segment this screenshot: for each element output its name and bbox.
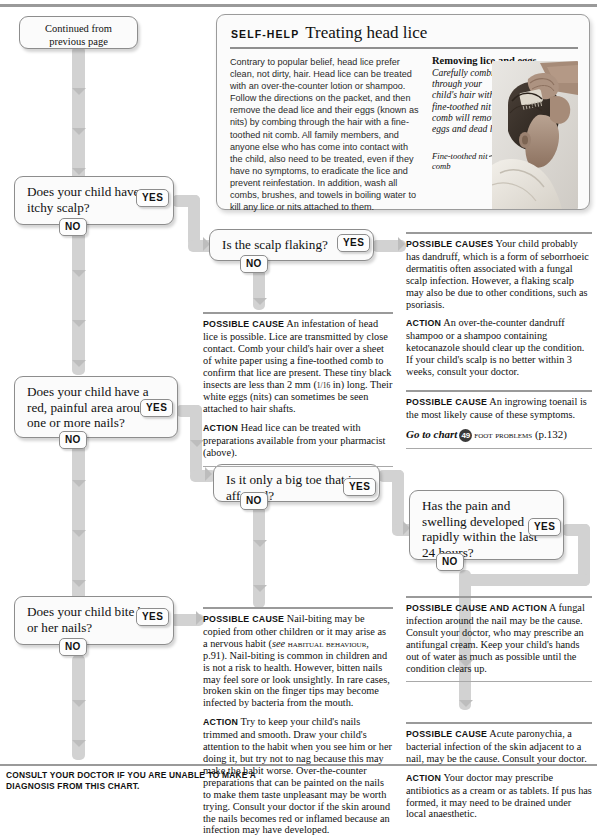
action-label: ACTION bbox=[406, 318, 441, 328]
chevron-down-icon bbox=[72, 360, 86, 367]
chevron-down-icon bbox=[72, 480, 86, 487]
headlice-cause-paragraph: POSSIBLE CAUSE An infestation of head li… bbox=[203, 318, 393, 415]
pipe-q1-no bbox=[72, 225, 85, 375]
question-text: Does your child have a red, painful area… bbox=[27, 384, 153, 430]
block-rule bbox=[203, 607, 393, 609]
yes-label: YES bbox=[534, 521, 555, 532]
yes-tag-q1[interactable]: YES bbox=[136, 189, 169, 207]
chevron-down-icon bbox=[253, 585, 267, 592]
paronychia-action-paragraph: ACTION Your doctor may prescribe antibio… bbox=[406, 772, 592, 821]
yes-tag-q3[interactable]: YES bbox=[140, 399, 173, 417]
block-rule bbox=[203, 312, 393, 314]
goto-chart-reference[interactable]: Go to chart49FOOT PROBLEMS (p.132) bbox=[406, 428, 592, 442]
dandruff-action-paragraph: ACTION An over-the-counter dandruff sham… bbox=[406, 317, 592, 378]
goto-page: (p.132) bbox=[535, 428, 567, 440]
possible-cause-and-action-label: POSSIBLE CAUSE AND ACTION bbox=[406, 603, 547, 613]
pipe-continued-to-q1 bbox=[72, 46, 85, 186]
paronychia-cause-paragraph: POSSIBLE CAUSE Acute paronychia, a bacte… bbox=[406, 728, 592, 765]
goto-prefix: Go to chart bbox=[406, 428, 457, 440]
block-rule-bottom bbox=[406, 681, 592, 682]
no-label: NO bbox=[246, 495, 262, 506]
chevron-down-icon bbox=[253, 540, 267, 547]
nailbiting-cause-paragraph: POSSIBLE CAUSE Nail-biting may be copied… bbox=[203, 613, 393, 709]
no-label: NO bbox=[246, 258, 262, 269]
chevron-down-icon bbox=[72, 270, 86, 277]
block-rule bbox=[406, 722, 592, 724]
possible-cause-label: POSSIBLE CAUSE bbox=[406, 397, 487, 407]
block-rule-bottom bbox=[203, 466, 393, 467]
yes-label: YES bbox=[146, 402, 167, 413]
continued-from-previous-page-box[interactable]: Continued from previous page bbox=[19, 16, 138, 49]
no-tag-q4[interactable]: NO bbox=[240, 492, 268, 510]
yes-tag-q5[interactable]: YES bbox=[528, 518, 561, 536]
possible-cause-label: POSSIBLE CAUSE bbox=[203, 319, 284, 329]
yes-label: YES bbox=[349, 481, 370, 492]
action-label: ACTION bbox=[406, 773, 441, 783]
chevron-down-icon bbox=[253, 298, 267, 305]
no-label: NO bbox=[65, 221, 81, 232]
yes-tag-q2[interactable]: YES bbox=[337, 234, 370, 252]
chevron-down-icon bbox=[72, 700, 86, 707]
block-rule bbox=[406, 232, 592, 234]
possible-causes-label: POSSIBLE CAUSES bbox=[406, 239, 493, 249]
goto-chart-name: FOOT PROBLEMS bbox=[474, 429, 532, 440]
dandruff-cause-paragraph: POSSIBLE CAUSES Your child probably has … bbox=[406, 238, 592, 310]
possible-cause-label: POSSIBLE CAUSE bbox=[406, 729, 487, 739]
nailbiting-cross-ref: HABITUAL BEHAVIOUR bbox=[288, 638, 367, 649]
block-rule bbox=[406, 596, 592, 598]
see-word: see bbox=[272, 638, 285, 649]
chevron-down-icon bbox=[190, 440, 204, 447]
no-tag-q6[interactable]: NO bbox=[59, 638, 87, 656]
text-block-paronychia: POSSIBLE CAUSE Acute paronychia, a bacte… bbox=[406, 722, 592, 820]
fungal-cause-paragraph: POSSIBLE CAUSE AND ACTION A fungal infec… bbox=[406, 602, 592, 674]
yes-tag-q6[interactable]: YES bbox=[136, 608, 169, 626]
yes-tag-q4[interactable]: YES bbox=[343, 478, 376, 496]
no-tag-q5[interactable]: NO bbox=[436, 553, 464, 571]
self-help-kicker: SELF-HELP bbox=[231, 28, 299, 40]
chevron-down-icon bbox=[72, 168, 86, 175]
continued-label: Continued from previous page bbox=[45, 23, 112, 47]
figure-leader-label: Fine-toothed nit comb bbox=[432, 151, 494, 171]
toenail-cause-paragraph: POSSIBLE CAUSE An ingrowing toenail is t… bbox=[406, 396, 592, 421]
no-tag-q1[interactable]: NO bbox=[59, 218, 87, 236]
headlice-action-paragraph: ACTION Head lice can be treated with pre… bbox=[203, 422, 393, 459]
no-label: NO bbox=[442, 556, 458, 567]
yes-label: YES bbox=[142, 192, 163, 203]
possible-cause-label: POSSIBLE CAUSE bbox=[203, 614, 284, 624]
chevron-down-icon bbox=[72, 530, 86, 537]
action-label: ACTION bbox=[203, 423, 238, 433]
chart-number-badge: 49 bbox=[459, 429, 472, 442]
text-block-fungal: POSSIBLE CAUSE AND ACTION A fungal infec… bbox=[406, 596, 592, 686]
text-block-toenail: POSSIBLE CAUSE An ingrowing toenail is t… bbox=[406, 390, 592, 453]
no-tag-q3[interactable]: NO bbox=[59, 431, 87, 449]
yes-label: YES bbox=[142, 611, 163, 622]
text-block-dandruff: POSSIBLE CAUSES Your child probably has … bbox=[406, 232, 592, 378]
self-help-heading: Treating head lice bbox=[305, 23, 427, 42]
no-tag-q2[interactable]: NO bbox=[240, 255, 268, 273]
self-help-body-text: Contrary to popular belief, head lice pr… bbox=[230, 56, 420, 213]
self-help-divider bbox=[230, 47, 578, 49]
self-help-panel: SELF-HELPTreating head lice Contrary to … bbox=[216, 14, 590, 210]
text-block-nail-biting: POSSIBLE CAUSE Nail-biting may be copied… bbox=[203, 607, 393, 836]
pipe-q5-yes-to-fungal bbox=[460, 574, 590, 586]
chevron-down-icon bbox=[72, 88, 86, 95]
action-label: ACTION bbox=[203, 717, 238, 727]
top-rule bbox=[0, 4, 597, 7]
self-help-figure: Removing lice and eggs Carefully combing… bbox=[432, 55, 578, 134]
question-text: Does your child bite his or her nails? bbox=[27, 604, 153, 635]
chevron-down-icon bbox=[459, 700, 473, 707]
no-label: NO bbox=[65, 434, 81, 445]
block-rule-bottom bbox=[406, 448, 592, 449]
footer-advice: CONSULT YOUR DOCTOR IF YOU ARE UNABLE TO… bbox=[6, 770, 306, 792]
chevron-down-icon bbox=[72, 740, 86, 747]
chevron-right-icon bbox=[398, 237, 405, 251]
text-block-head-lice: POSSIBLE CAUSE An infestation of head li… bbox=[203, 312, 393, 471]
yes-label: YES bbox=[343, 237, 364, 248]
chevron-down-icon bbox=[72, 580, 86, 587]
photo-combing-hair bbox=[492, 61, 578, 209]
headlice-fraction: 1/16 bbox=[317, 381, 330, 390]
chevron-down-icon bbox=[72, 320, 86, 327]
block-rule bbox=[406, 390, 592, 392]
question-text: Is the scalp flaking? bbox=[222, 237, 328, 252]
